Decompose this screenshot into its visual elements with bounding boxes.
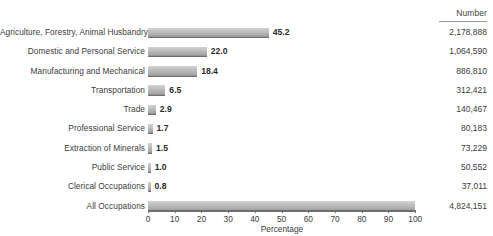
row-category-label: Transportation: [0, 81, 145, 100]
row-category-label: Extraction of Minerals: [0, 139, 145, 158]
row-category-label: Professional Service: [0, 119, 145, 138]
bar-track: 6.5: [148, 81, 416, 100]
bar-track: 22.0: [148, 42, 416, 61]
row-number-value: 50,552: [397, 158, 487, 177]
bar: [148, 47, 207, 58]
chart-row: Agriculture, Forestry, Animal Husbandry4…: [0, 23, 493, 42]
chart-row: Domestic and Personal Service22.01,064,5…: [0, 42, 493, 61]
row-number-value: 140,467: [397, 100, 487, 119]
bar: [148, 163, 151, 174]
bar: [148, 105, 156, 116]
row-number-value: 80,183: [397, 119, 487, 138]
bar-value-label: 1.5: [156, 139, 168, 158]
bar: [148, 182, 151, 193]
x-axis-tick-label: 40: [250, 214, 259, 224]
x-axis-tick-label: 30: [224, 214, 233, 224]
x-axis-tick-label: 10: [170, 214, 179, 224]
x-axis-tick-label: 90: [384, 214, 393, 224]
row-category-label: Manufacturing and Mechanical: [0, 62, 145, 81]
number-column-header: Number: [401, 8, 487, 18]
x-axis-tick-label: 80: [357, 214, 366, 224]
bar: [148, 143, 152, 154]
row-category-label: Domestic and Personal Service: [0, 42, 145, 61]
chart-row: Trade2.9140,467: [0, 100, 493, 119]
bar-value-label: 22.0: [211, 42, 228, 61]
bar: [148, 124, 153, 135]
x-axis-tick-label: 70: [330, 214, 339, 224]
row-number-value: 37,011: [397, 177, 487, 196]
x-axis-tick-label: 50: [277, 214, 286, 224]
row-number-value: 886,810: [397, 62, 487, 81]
bar: [148, 66, 197, 77]
row-number-value: 2,178,888: [397, 23, 487, 42]
row-category-label: All Occupations: [0, 197, 145, 216]
bar-track: 45.2: [148, 23, 416, 42]
row-category-label: Trade: [0, 100, 145, 119]
number-column-rule: [439, 21, 487, 22]
occupation-percentage-bar-chart: Number Agriculture, Forestry, Animal Hus…: [0, 0, 493, 236]
x-axis-title: Percentage: [261, 224, 303, 234]
chart-row: Transportation6.5312,421: [0, 81, 493, 100]
x-axis-tick-label: 60: [304, 214, 313, 224]
bar-value-label: 0.8: [155, 177, 167, 196]
bar-value-label: 45.2: [273, 23, 290, 42]
bar-track: 1.0: [148, 158, 416, 177]
row-category-label: Public Service: [0, 158, 145, 177]
bar-value-label: 18.4: [201, 62, 218, 81]
row-number-value: 73,229: [397, 139, 487, 158]
row-category-label: Agriculture, Forestry, Animal Husbandry: [0, 23, 145, 42]
chart-row: Extraction of Minerals1.573,229: [0, 139, 493, 158]
bar-value-label: 6.5: [169, 81, 181, 100]
x-axis-tick-label: 100: [408, 214, 422, 224]
bar-track: 1.7: [148, 119, 416, 138]
x-axis: 0102030405060708090100 Percentage: [148, 210, 416, 236]
chart-row: Clerical Occupations0.837,011: [0, 177, 493, 196]
bar-track: 1.5: [148, 139, 416, 158]
bar-track: 2.9: [148, 100, 416, 119]
chart-row: Manufacturing and Mechanical18.4886,810: [0, 62, 493, 81]
bar: [148, 85, 165, 96]
row-number-value: 312,421: [397, 81, 487, 100]
x-axis-tick-label: 20: [197, 214, 206, 224]
chart-row: Professional Service1.780,183: [0, 119, 493, 138]
x-axis-tick-label: 0: [146, 214, 151, 224]
bar-track: 18.4: [148, 62, 416, 81]
bar-value-label: 2.9: [160, 100, 172, 119]
chart-rows: Agriculture, Forestry, Animal Husbandry4…: [0, 23, 493, 216]
bar-value-label: 1.7: [157, 119, 169, 138]
bar-value-label: 1.0: [155, 158, 167, 177]
bar-track: 0.8: [148, 177, 416, 196]
bar: [148, 28, 269, 39]
chart-row: Public Service1.050,552: [0, 158, 493, 177]
row-number-value: 1,064,590: [397, 42, 487, 61]
row-category-label: Clerical Occupations: [0, 177, 145, 196]
